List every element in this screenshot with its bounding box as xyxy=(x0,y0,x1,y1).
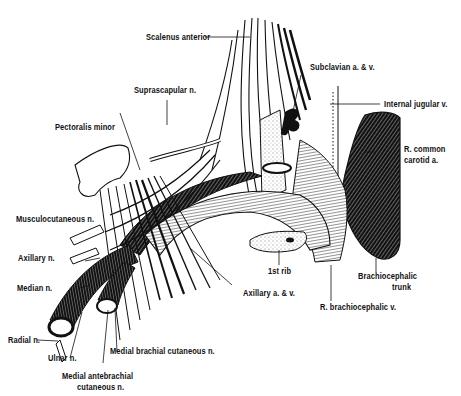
label-brachiocephalic-trunk-line1: Brachiocephalic xyxy=(358,271,417,281)
label-medial-antebrachial-line1: Medial antebrachial xyxy=(62,371,133,381)
label-subclavian-artery-vein: Subclavian a. & v. xyxy=(310,62,375,72)
label-axillary-nerve: Axillary n. xyxy=(18,253,55,263)
brachial-vein-lumen xyxy=(97,299,117,313)
subclavian-column xyxy=(260,110,286,200)
label-musculocutaneous-nerve: Musculocutaneous n. xyxy=(16,214,94,224)
label-ulnar-nerve: Ulnar n. xyxy=(48,353,77,363)
label-brachiocephalic-trunk-line2: trunk xyxy=(392,282,411,292)
axillary-nerve xyxy=(70,248,99,264)
label-right-common-carotid-line2: carotid a. xyxy=(404,155,438,165)
label-radial-nerve: Radial n. xyxy=(8,335,40,345)
subclavian-vein-opening xyxy=(263,163,291,173)
right-common-carotid-artery xyxy=(340,112,400,259)
label-median-nerve: Median n. xyxy=(17,283,52,293)
internal-jugular-vein xyxy=(333,86,338,180)
anatomy-figure: Scalenus anterior Subclavian a. & v. Sup… xyxy=(0,0,461,396)
label-medial-antebrachial-line2: cutaneous n. xyxy=(77,382,124,392)
label-first-rib: 1st rib xyxy=(268,266,291,276)
first-rib xyxy=(250,231,307,252)
label-axillary-artery-vein: Axillary a. & v. xyxy=(243,288,295,298)
brachial-artery-lumen xyxy=(49,318,73,336)
musculocutaneous-nerve xyxy=(70,225,104,245)
vertebral-branch xyxy=(281,108,300,135)
label-scalenus-anterior: Scalenus anterior xyxy=(146,32,210,42)
label-right-common-carotid-line1: R. common xyxy=(404,144,446,154)
coracoid-process xyxy=(75,145,130,196)
anatomy-drawing xyxy=(0,0,461,396)
label-internal-jugular-vein: Internal jugular v. xyxy=(384,99,447,109)
label-right-brachiocephalic-vein: R. brachiocephalic v. xyxy=(320,302,396,312)
label-medial-brachial-cutaneous-nerve: Medial brachial cutaneous n. xyxy=(110,346,215,356)
label-pectoralis-minor: Pectoralis minor xyxy=(55,122,115,132)
label-suprascapular-nerve: Suprascapular n. xyxy=(134,85,196,95)
